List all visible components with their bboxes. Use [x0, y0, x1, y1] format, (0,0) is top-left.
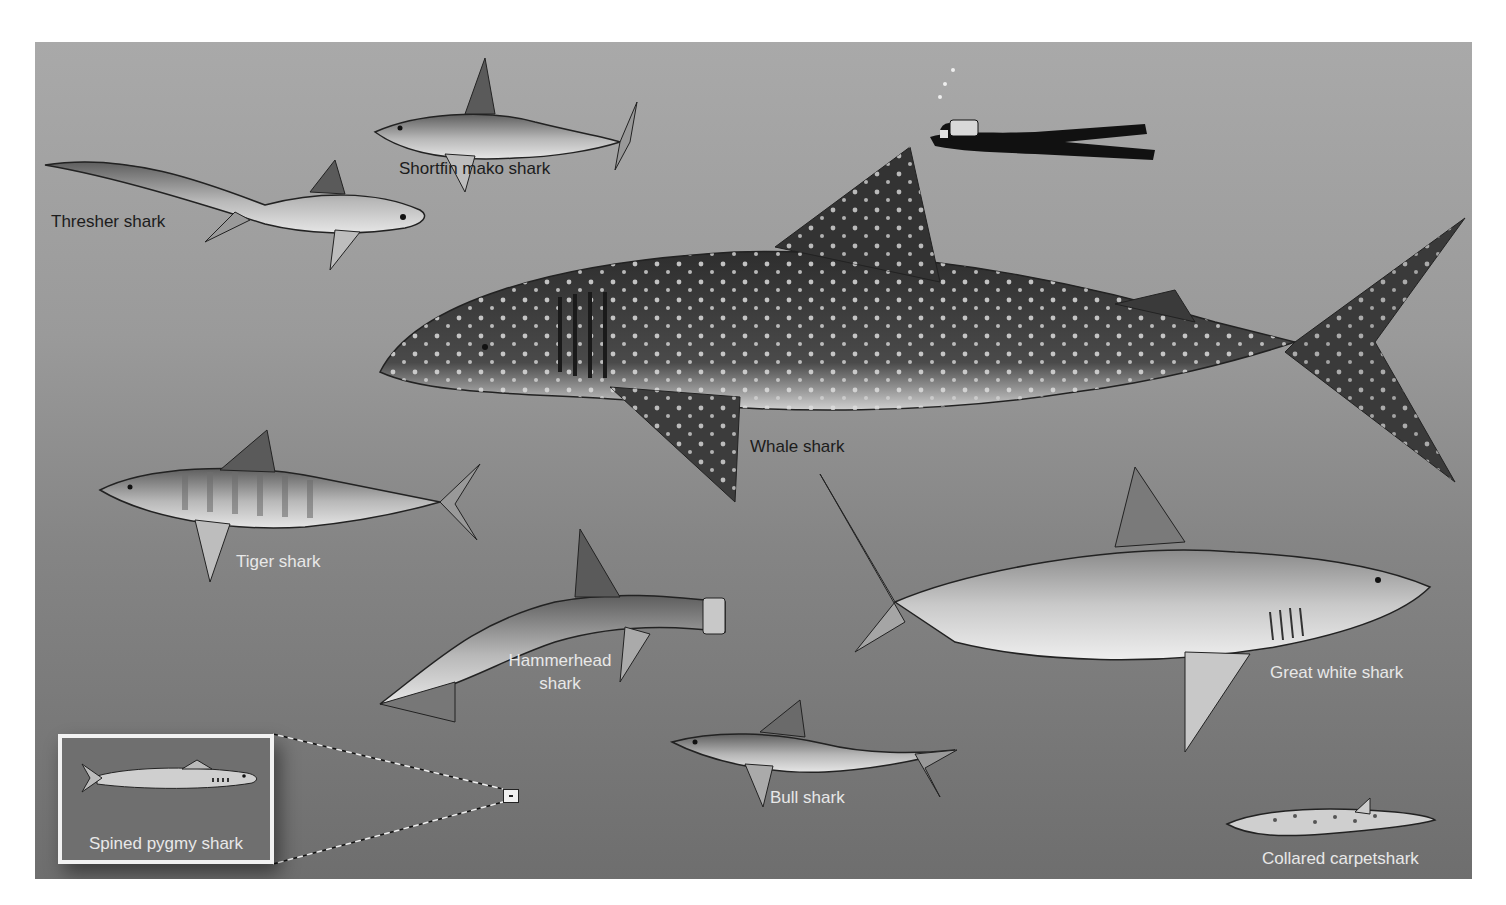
hammerhead-shark-drawing — [380, 529, 725, 722]
illustration-panel: Thresher shark Shortfin mako shark Whale… — [35, 42, 1472, 879]
label-great-white-shark: Great white shark — [1270, 664, 1403, 681]
whale-shark-drawing — [380, 147, 1465, 502]
great-white-shark-drawing — [820, 467, 1430, 752]
label-hammerhead-line1: Hammerhead — [505, 652, 615, 669]
label-hammerhead-shark: Hammerhead shark — [505, 652, 615, 692]
label-tiger-shark: Tiger shark — [236, 553, 320, 570]
label-shortfin-mako-shark: Shortfin mako shark — [399, 160, 550, 177]
label-thresher-shark: Thresher shark — [51, 213, 165, 230]
zoom-marker-icon — [503, 789, 519, 803]
label-hammerhead-line2: shark — [505, 675, 615, 692]
collared-carpetshark-drawing — [1227, 798, 1435, 836]
label-spined-pygmy-shark: Spined pygmy shark — [62, 835, 270, 852]
label-collared-carpetshark: Collared carpetshark — [1262, 850, 1419, 867]
pygmy-shark-inset: Spined pygmy shark — [58, 734, 274, 864]
scuba-diver-icon — [930, 68, 1155, 160]
label-bull-shark: Bull shark — [770, 789, 845, 806]
spined-pygmy-shark-drawing — [62, 738, 270, 818]
zoom-connector-lines — [273, 734, 503, 864]
label-whale-shark: Whale shark — [750, 438, 844, 455]
